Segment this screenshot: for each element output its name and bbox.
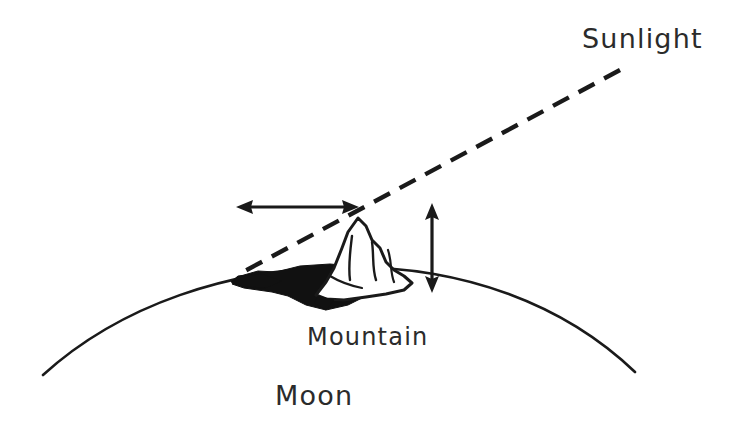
- diagram-canvas: Sunlight Mountain Moon: [0, 0, 731, 428]
- moon-mountain-shadow-diagram: Sunlight Mountain Moon: [0, 0, 731, 428]
- label-moon: Moon: [275, 380, 353, 411]
- background: [0, 0, 731, 428]
- label-sunlight: Sunlight: [582, 23, 703, 54]
- label-mountain: Mountain: [307, 323, 428, 351]
